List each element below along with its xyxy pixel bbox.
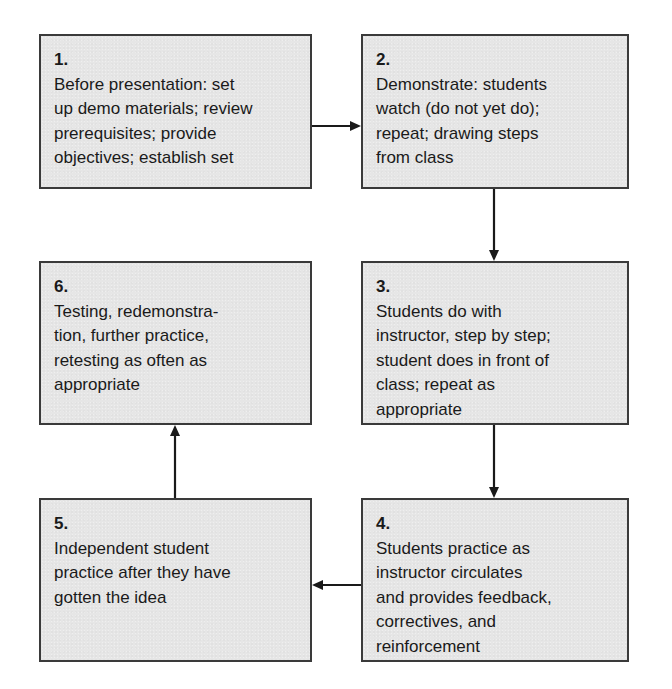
- step-5-box: 5. Independent student practice after th…: [39, 498, 312, 662]
- step-6-box: 6. Testing, redemonstra- tion, further p…: [39, 261, 312, 425]
- arrow-1-to-2: [312, 121, 361, 131]
- step-1-number: 1.: [54, 48, 298, 73]
- arrow-down-icon: [489, 487, 499, 498]
- step-5-number: 5.: [54, 512, 298, 537]
- step-4-number: 4.: [376, 512, 615, 537]
- step-2-number: 2.: [376, 48, 615, 73]
- step-1-box: 1. Before presentation: set up demo mate…: [39, 34, 312, 189]
- step-2-box: 2. Demonstrate: students watch (do not y…: [361, 34, 629, 189]
- step-3-box: 3. Students do with instructor, step by …: [361, 261, 629, 425]
- arrow-5-to-6: [170, 425, 180, 498]
- step-6-text: Testing, redemonstra- tion, further prac…: [54, 300, 298, 398]
- arrow-left-icon: [312, 580, 323, 590]
- step-2-text: Demonstrate: students watch (do not yet …: [376, 73, 615, 171]
- step-1-text: Before presentation: set up demo materia…: [54, 73, 298, 171]
- arrow-up-icon: [170, 425, 180, 436]
- arrow-4-to-5: [312, 580, 361, 590]
- arrow-down-icon: [489, 250, 499, 261]
- step-5-text: Independent student practice after they …: [54, 537, 298, 611]
- step-6-number: 6.: [54, 275, 298, 300]
- step-3-text: Students do with instructor, step by ste…: [376, 300, 615, 423]
- arrow-2-to-3: [489, 189, 499, 261]
- step-3-number: 3.: [376, 275, 615, 300]
- step-4-text: Students practice as instructor circulat…: [376, 537, 615, 660]
- arrow-3-to-4: [489, 425, 499, 498]
- step-4-box: 4. Students practice as instructor circu…: [361, 498, 629, 662]
- arrow-right-icon: [350, 121, 361, 131]
